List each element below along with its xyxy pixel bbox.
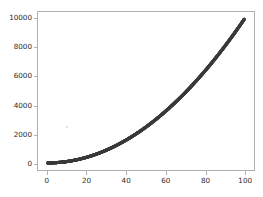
x-tick-label: 60 xyxy=(161,177,170,184)
scatter-points-group xyxy=(46,18,246,165)
x-tick-label: 80 xyxy=(201,177,210,184)
y-tick-label: 2000 xyxy=(14,131,32,138)
x-tick-mark xyxy=(86,171,87,175)
x-tick-mark xyxy=(206,171,207,175)
x-tick-mark xyxy=(47,171,48,175)
x-tick-mark xyxy=(126,171,127,175)
x-tick-label: 40 xyxy=(122,177,131,184)
y-tick-label: 8000 xyxy=(14,44,32,51)
y-tick-mark xyxy=(34,76,38,77)
stray-speck-artifact xyxy=(66,126,68,128)
y-tick-mark xyxy=(34,164,38,165)
matplotlib-figure: 0200040006000800010000 020406080100 xyxy=(0,0,263,197)
y-tick-label: 0 xyxy=(27,160,32,167)
x-tick-label: 100 xyxy=(238,177,252,184)
y-tick-mark xyxy=(34,106,38,107)
x-tick-mark xyxy=(166,171,167,175)
y-axis-tick-labels: 0200040006000800010000 xyxy=(0,0,32,197)
x-tick-label: 20 xyxy=(82,177,91,184)
x-tick-label: 0 xyxy=(45,177,50,184)
y-tick-label: 4000 xyxy=(14,102,32,109)
x-tick-mark xyxy=(245,171,246,175)
x-axis-tick-labels: 020406080100 xyxy=(0,177,263,191)
plot-axes-frame xyxy=(37,11,255,171)
y-tick-mark xyxy=(34,47,38,48)
scatter-series-layer xyxy=(38,12,254,170)
y-tick-label: 10000 xyxy=(9,15,32,22)
y-tick-mark xyxy=(34,18,38,19)
y-tick-label: 6000 xyxy=(14,73,32,80)
y-tick-mark xyxy=(34,135,38,136)
